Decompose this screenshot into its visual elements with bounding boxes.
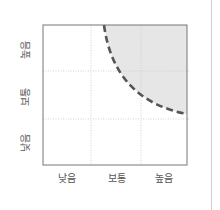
panel-separator <box>211 0 212 210</box>
x-label-medium: 보통 <box>108 173 126 184</box>
y-label-low: 낮음 <box>20 134 31 152</box>
x-label-low: 낮음 <box>58 173 76 184</box>
y-label-high: 높음 <box>20 41 31 59</box>
y-label-medium: 보통 <box>20 88 31 106</box>
chart: 높음 보통 낮음 낮음 보통 높음 <box>0 0 220 210</box>
x-label-high: 높음 <box>155 173 173 184</box>
shaded-region <box>104 25 187 114</box>
